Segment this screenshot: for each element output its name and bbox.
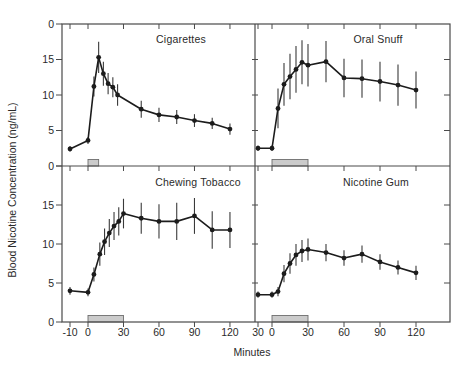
y-tick-label: 0 bbox=[48, 316, 54, 328]
data-point bbox=[106, 81, 111, 86]
panel-nicotine-gum bbox=[256, 239, 419, 322]
x-tick-label: 90 bbox=[374, 326, 386, 338]
y-tick-label: 10 bbox=[42, 238, 54, 250]
data-point bbox=[139, 107, 144, 112]
data-point bbox=[294, 253, 299, 258]
exposure-bar bbox=[88, 160, 99, 167]
x-tick-label: 30 bbox=[118, 326, 130, 338]
data-point bbox=[288, 74, 293, 79]
y-tick-label: 0 bbox=[48, 18, 54, 30]
panel-title-cigarettes: Cigarettes bbox=[156, 33, 206, 45]
data-point bbox=[115, 93, 120, 98]
data-point bbox=[378, 79, 383, 84]
x-tick-label: 120 bbox=[221, 326, 239, 338]
data-point bbox=[342, 256, 347, 261]
data-point bbox=[86, 138, 91, 143]
data-point bbox=[360, 76, 365, 81]
data-point bbox=[300, 249, 305, 254]
data-point bbox=[107, 231, 112, 236]
x-tick-label: -10 bbox=[62, 326, 77, 338]
data-point bbox=[110, 85, 115, 90]
data-point bbox=[68, 147, 73, 152]
data-point bbox=[256, 292, 261, 297]
data-point bbox=[228, 127, 233, 132]
data-point bbox=[157, 112, 162, 117]
data-point bbox=[342, 76, 347, 81]
data-point bbox=[256, 146, 261, 151]
data-point bbox=[270, 292, 275, 297]
data-point bbox=[102, 239, 107, 244]
data-point bbox=[192, 118, 197, 123]
panel-frame bbox=[62, 24, 450, 322]
data-line bbox=[258, 249, 416, 294]
data-point bbox=[157, 219, 162, 224]
data-point bbox=[288, 261, 293, 266]
x-tick-label: 60 bbox=[153, 326, 165, 338]
x-tick-label: 90 bbox=[189, 326, 201, 338]
data-point bbox=[101, 71, 106, 76]
y-axis-label: Blood Nicotine Concentration (ng/mL) bbox=[6, 40, 20, 340]
data-point bbox=[174, 219, 179, 224]
data-point bbox=[228, 228, 233, 233]
panel-oral-snuff bbox=[256, 40, 419, 166]
x-tick-label: 0 bbox=[85, 326, 91, 338]
data-point bbox=[270, 146, 275, 151]
data-point bbox=[294, 67, 299, 72]
data-point bbox=[396, 265, 401, 270]
data-point bbox=[112, 224, 117, 229]
exposure-bar bbox=[88, 316, 123, 323]
y-tick-label: 15 bbox=[42, 199, 54, 211]
panel-title-oral-snuff: Oral Snuff bbox=[353, 33, 402, 45]
data-point bbox=[210, 228, 215, 233]
data-point bbox=[360, 252, 365, 257]
data-point bbox=[86, 290, 91, 295]
y-tick-label: 10 bbox=[42, 89, 54, 101]
data-point bbox=[282, 271, 287, 276]
data-point bbox=[192, 214, 197, 219]
x-tick-label: 30 bbox=[252, 326, 264, 338]
data-point bbox=[92, 84, 97, 89]
panel-chewing-tobacco bbox=[68, 198, 233, 322]
data-line bbox=[258, 62, 416, 149]
data-point bbox=[68, 288, 73, 293]
data-point bbox=[324, 59, 329, 64]
y-tick-label: 0 bbox=[48, 160, 54, 172]
data-point bbox=[276, 289, 281, 294]
data-point bbox=[96, 55, 101, 60]
data-point bbox=[139, 216, 144, 221]
panel-title-chewing-tobacco: Chewing Tobacco bbox=[155, 176, 241, 188]
data-point bbox=[414, 270, 419, 275]
data-point bbox=[324, 250, 329, 255]
nicotine-concentration-figure: 0510150051015-100306090120300306090120 C… bbox=[0, 0, 469, 373]
y-tick-label: 5 bbox=[48, 124, 54, 136]
y-tick-label: 5 bbox=[48, 277, 54, 289]
data-point bbox=[174, 115, 179, 120]
panel-title-nicotine-gum: Nicotine Gum bbox=[343, 176, 409, 188]
x-axis-label: Minutes bbox=[234, 346, 271, 358]
data-point bbox=[306, 247, 311, 252]
exposure-bar bbox=[272, 160, 308, 167]
data-point bbox=[300, 60, 305, 65]
exposure-bar bbox=[272, 316, 308, 323]
data-point bbox=[396, 83, 401, 88]
data-point bbox=[121, 211, 126, 216]
data-point bbox=[306, 63, 311, 68]
panel-cigarettes bbox=[68, 42, 233, 166]
data-point bbox=[116, 219, 121, 224]
x-tick-label: 30 bbox=[302, 326, 314, 338]
x-tick-label: 120 bbox=[407, 326, 425, 338]
data-line bbox=[70, 57, 230, 149]
data-point bbox=[414, 88, 419, 93]
data-point bbox=[276, 106, 281, 111]
x-tick-label: 60 bbox=[338, 326, 350, 338]
data-point bbox=[97, 252, 102, 257]
data-point bbox=[282, 82, 287, 87]
data-point bbox=[378, 260, 383, 265]
data-point bbox=[210, 121, 215, 126]
y-tick-label: 15 bbox=[42, 53, 54, 65]
x-tick-label: 0 bbox=[269, 326, 275, 338]
data-point bbox=[92, 272, 97, 277]
